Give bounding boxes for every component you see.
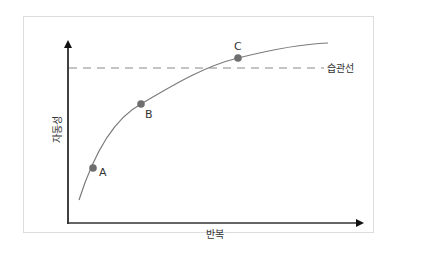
x-axis-label: 반복 — [206, 229, 224, 240]
point-c-label: C — [234, 40, 242, 53]
point-c-marker — [234, 54, 242, 62]
automaticity-curve — [79, 43, 328, 200]
habit-formation-diagram: 습관선 A B C 자동성 반복 — [0, 0, 423, 272]
y-axis-label: 자동성 — [52, 116, 63, 143]
point-b-marker — [137, 100, 145, 108]
habit-threshold-label: 습관선 — [327, 63, 354, 74]
point-b-label: B — [145, 108, 153, 121]
point-a-label: A — [99, 166, 107, 179]
point-a-marker — [89, 164, 97, 172]
